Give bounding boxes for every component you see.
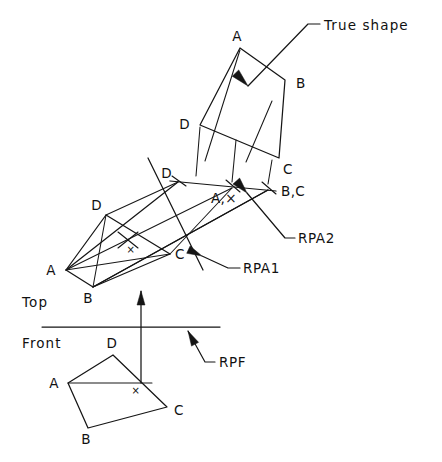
rpf-group: RPF xyxy=(188,331,246,370)
vertex-label-B: B xyxy=(81,431,91,447)
vertex-label-D: D xyxy=(107,335,118,351)
vertex-label-A: A xyxy=(49,375,59,391)
top-view-vertex-labels: ABCD× xyxy=(46,197,184,306)
vertex-label-D: D xyxy=(91,197,102,213)
projector-lines-to-true-shape xyxy=(196,50,272,184)
edge-strip-line-0 xyxy=(66,182,178,270)
projection-arrowhead-icon xyxy=(137,291,145,305)
projection-arrow-group xyxy=(137,291,145,383)
projector-to-true-shape-2 xyxy=(232,140,236,182)
vertex-label-C: C xyxy=(283,161,293,177)
vertex-label-C: C xyxy=(174,402,184,418)
projector-to-true-shape-0 xyxy=(196,127,200,176)
true-shape-quadrilateral xyxy=(200,48,285,158)
vertex-label-: × xyxy=(132,385,141,396)
vertex-label-D: D xyxy=(179,116,190,132)
rpa1-label: RPA1 xyxy=(243,260,280,276)
vertex-label-B: B xyxy=(83,290,93,306)
front-view-quadrilateral xyxy=(68,355,167,428)
vertex-label-BC: B,C xyxy=(281,183,305,199)
true-shape-label: True shape xyxy=(323,17,409,33)
vertex-label-A: A xyxy=(46,262,56,278)
front-view-group: ABCD× xyxy=(49,335,183,447)
edge-strip-line-1 xyxy=(93,190,268,287)
rpa1-arrowhead-icon xyxy=(187,246,202,256)
true-shape-callout-group: True shape xyxy=(232,17,408,86)
vertex-label-: × xyxy=(127,244,136,255)
rpf-label: RPF xyxy=(219,354,246,370)
front-view-vertex-labels: ABCD× xyxy=(49,335,183,447)
technical-drawing-root: ABCD DA,×B,C ABCD× RPA1 xyxy=(0,0,442,462)
vertex-label-B: B xyxy=(296,75,306,91)
fold-line-group: Top Front xyxy=(21,294,220,351)
descriptive-geometry-canvas: ABCD DA,×B,C ABCD× RPA1 xyxy=(0,0,442,462)
true-shape-arrowhead-icon xyxy=(232,70,248,86)
vertex-label-C: C xyxy=(175,246,185,262)
rpa2-leader-line xyxy=(247,193,295,238)
top-view-label: Top xyxy=(21,294,48,310)
rpa1-leader-line xyxy=(202,256,240,268)
vertex-label-D: D xyxy=(161,165,172,181)
rpa2-label: RPA2 xyxy=(298,230,335,246)
top-view-group: ABCD× xyxy=(46,197,184,306)
vertex-label-A: A xyxy=(232,28,242,44)
rpf-arrowhead-icon xyxy=(188,331,199,346)
true-shape-leader-line xyxy=(248,24,320,86)
projector-to-true-shape-4 xyxy=(268,160,272,184)
front-view-label: Front xyxy=(22,335,62,351)
